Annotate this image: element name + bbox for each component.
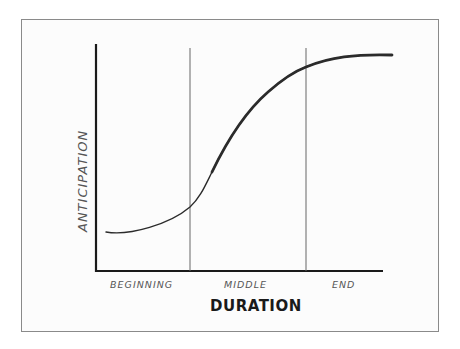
- anticipation-curve: [106, 55, 392, 233]
- section-label-end: END: [332, 279, 355, 290]
- s-curve-chart: ANTICIPATION BEGINNING MIDDLE END DURATI…: [0, 0, 460, 349]
- y-axis-label: ANTICIPATION: [75, 130, 90, 233]
- anticipation-curve-thick: [212, 55, 392, 172]
- x-axis-label: DURATION: [210, 297, 302, 315]
- section-label-beginning: BEGINNING: [110, 279, 173, 290]
- section-label-middle: MIDDLE: [224, 279, 267, 290]
